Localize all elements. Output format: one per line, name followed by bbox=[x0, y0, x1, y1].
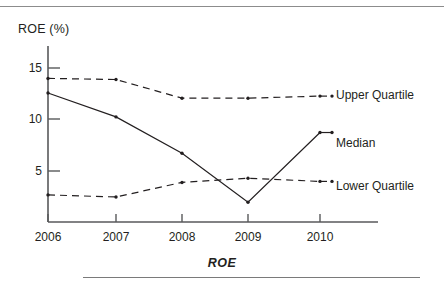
series-upper-quartile bbox=[46, 77, 333, 100]
x-tick-label-2009: 2009 bbox=[222, 230, 274, 244]
y-tick-label-5: 5 bbox=[16, 164, 42, 178]
x-tick-label-2010: 2010 bbox=[294, 230, 346, 244]
x-tick-marks bbox=[48, 214, 320, 222]
x-tick-label-2008: 2008 bbox=[156, 230, 208, 244]
x-tick-label-2007: 2007 bbox=[90, 230, 142, 244]
figure-caption: ROE bbox=[0, 256, 444, 270]
legend-label-median: Median bbox=[336, 136, 375, 150]
legend-label-lower-quartile: Lower Quartile bbox=[336, 179, 414, 193]
x-tick-label-2006: 2006 bbox=[22, 230, 74, 244]
y-tick-marks bbox=[48, 68, 60, 171]
y-tick-label-15: 15 bbox=[16, 61, 42, 75]
series-median bbox=[46, 91, 333, 204]
figure-roe-chart: ROE (%) 15 10 5 2006 2007 2008 2009 2010 bbox=[0, 0, 444, 284]
series-lower-quartile bbox=[46, 177, 333, 199]
caption-divider bbox=[83, 277, 420, 278]
y-tick-label-10: 10 bbox=[16, 112, 42, 126]
legend-label-upper-quartile: Upper Quartile bbox=[336, 88, 414, 102]
